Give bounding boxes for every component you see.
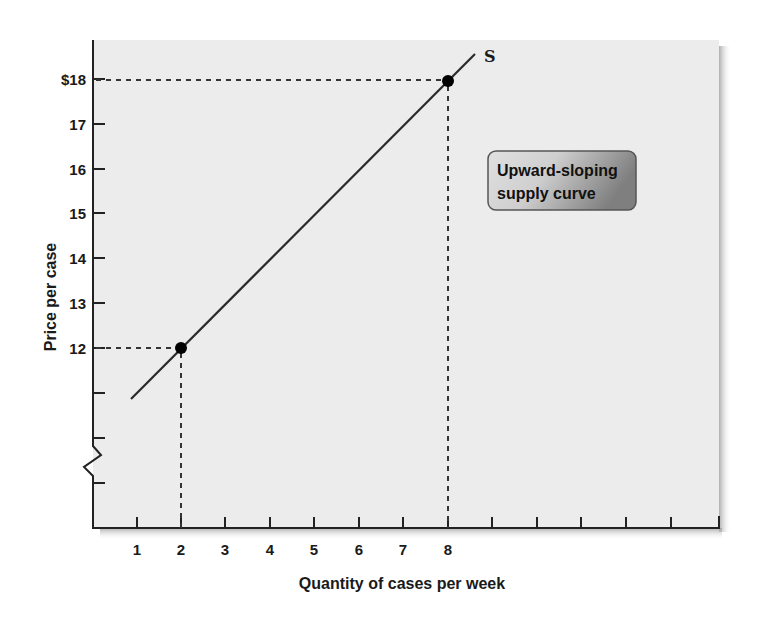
x-tick-1: 1 xyxy=(133,541,141,558)
x-tick-5: 5 xyxy=(310,541,318,558)
callout-line-1: Upward-sloping xyxy=(497,162,618,179)
y-tick-15: 15 xyxy=(69,205,86,222)
panel-shadow-right xyxy=(719,46,731,532)
callout-box: Upward-sloping supply curve xyxy=(488,151,636,210)
callout-line-2: supply curve xyxy=(497,185,596,202)
y-tick-16: 16 xyxy=(69,161,86,178)
y-tick-17: 17 xyxy=(69,116,86,133)
x-tick-7: 7 xyxy=(399,541,407,558)
y-tick-labels: $18 17 16 15 14 13 12 xyxy=(61,71,87,357)
x-tick-6: 6 xyxy=(355,541,363,558)
x-tick-labels: 1 2 3 4 5 6 7 8 xyxy=(133,541,452,558)
x-tick-3: 3 xyxy=(221,541,229,558)
y-tick-18: $18 xyxy=(61,71,86,88)
y-tick-14: 14 xyxy=(69,250,86,267)
y-axis-title: Price per case xyxy=(42,243,59,352)
y-tick-12: 12 xyxy=(69,340,86,357)
panel-shadow-bottom xyxy=(100,528,722,540)
supply-chart: $18 17 16 15 14 13 12 1 2 3 4 5 6 7 8 S … xyxy=(0,0,770,617)
point-q2-p12 xyxy=(175,342,187,354)
x-tick-2: 2 xyxy=(177,541,185,558)
x-tick-8: 8 xyxy=(444,541,452,558)
plot-panel xyxy=(93,40,719,528)
y-tick-13: 13 xyxy=(69,295,86,312)
x-axis-title: Quantity of cases per week xyxy=(299,575,505,592)
x-tick-4: 4 xyxy=(266,541,275,558)
point-q8-p18 xyxy=(442,75,454,87)
curve-label-s: S xyxy=(484,47,496,66)
